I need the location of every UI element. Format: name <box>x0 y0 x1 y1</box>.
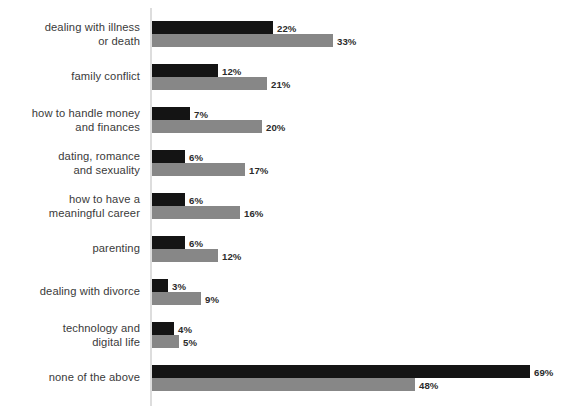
bar-value-label: 6% <box>189 237 203 248</box>
bar-group: 4%5% <box>152 320 573 350</box>
bar-value-label: 12% <box>222 250 242 261</box>
bar-series-a <box>152 64 218 77</box>
category-label: dealing with illness or death <box>0 21 140 48</box>
chart-row: how to handle money and finances7%20% <box>0 105 573 135</box>
category-label: how to handle money and finances <box>0 107 140 134</box>
bar-track: 6% <box>152 236 573 249</box>
chart-row: family conflict12%21% <box>0 62 573 92</box>
bar-group: 6%17% <box>152 148 573 178</box>
bar-series-b <box>152 249 218 262</box>
category-label: dealing with divorce <box>0 285 140 299</box>
bar-series-a <box>152 21 273 34</box>
chart-row: dealing with illness or death22%33% <box>0 19 573 49</box>
bar-track: 4% <box>152 322 573 335</box>
bar-value-label: 33% <box>337 35 357 46</box>
bar-track: 21% <box>152 77 573 90</box>
bar-series-b <box>152 378 415 391</box>
bar-group: 12%21% <box>152 62 573 92</box>
bar-series-b <box>152 335 179 348</box>
bar-track: 20% <box>152 120 573 133</box>
chart-row: how to have a meaningful career6%16% <box>0 191 573 221</box>
bar-track: 69% <box>152 365 573 378</box>
category-label: technology and digital life <box>0 322 140 349</box>
chart-rows: dealing with illness or death22%33%famil… <box>0 0 573 414</box>
bar-track: 6% <box>152 150 573 163</box>
chart-row: parenting6%12% <box>0 234 573 264</box>
bar-value-label: 20% <box>266 121 286 132</box>
bar-group: 69%48% <box>152 363 573 393</box>
category-label: how to have a meaningful career <box>0 193 140 220</box>
bar-group: 22%33% <box>152 19 573 49</box>
bar-group: 6%16% <box>152 191 573 221</box>
bar-series-b <box>152 292 201 305</box>
bar-value-label: 3% <box>172 280 186 291</box>
bar-track: 9% <box>152 292 573 305</box>
bar-value-label: 16% <box>244 207 264 218</box>
bar-track: 12% <box>152 64 573 77</box>
bar-series-a <box>152 193 185 206</box>
bar-value-label: 5% <box>183 336 197 347</box>
bar-series-b <box>152 120 262 133</box>
chart-row: none of the above69%48% <box>0 363 573 393</box>
bar-value-label: 4% <box>178 323 192 334</box>
bar-track: 22% <box>152 21 573 34</box>
category-label: none of the above <box>0 371 140 385</box>
bar-series-b <box>152 206 240 219</box>
bar-track: 17% <box>152 163 573 176</box>
chart-row: dealing with divorce3%9% <box>0 277 573 307</box>
bar-value-label: 9% <box>205 293 219 304</box>
category-label: family conflict <box>0 70 140 84</box>
bar-value-label: 6% <box>189 194 203 205</box>
bar-series-b <box>152 163 245 176</box>
bar-track: 6% <box>152 193 573 206</box>
bar-value-label: 6% <box>189 151 203 162</box>
bar-value-label: 48% <box>419 379 439 390</box>
category-label: parenting <box>0 242 140 256</box>
bar-track: 16% <box>152 206 573 219</box>
bar-value-label: 22% <box>277 22 297 33</box>
chart-row: dating, romance and sexuality6%17% <box>0 148 573 178</box>
bar-series-b <box>152 77 267 90</box>
bar-series-a <box>152 322 174 335</box>
bar-value-label: 12% <box>222 65 242 76</box>
bar-series-a <box>152 236 185 249</box>
bar-value-label: 17% <box>249 164 269 175</box>
bar-track: 5% <box>152 335 573 348</box>
category-label: dating, romance and sexuality <box>0 150 140 177</box>
bar-series-a <box>152 150 185 163</box>
bar-group: 7%20% <box>152 105 573 135</box>
bar-group: 6%12% <box>152 234 573 264</box>
bar-track: 7% <box>152 107 573 120</box>
bar-group: 3%9% <box>152 277 573 307</box>
chart-row: technology and digital life4%5% <box>0 320 573 350</box>
bar-series-a <box>152 365 530 378</box>
bar-series-b <box>152 34 333 47</box>
horizontal-bar-chart: dealing with illness or death22%33%famil… <box>0 0 573 414</box>
bar-track: 33% <box>152 34 573 47</box>
bar-track: 48% <box>152 378 573 391</box>
bar-track: 3% <box>152 279 573 292</box>
bar-value-label: 21% <box>271 78 291 89</box>
bar-value-label: 69% <box>534 366 554 377</box>
bar-series-a <box>152 279 168 292</box>
bar-track: 12% <box>152 249 573 262</box>
bar-value-label: 7% <box>194 108 208 119</box>
bar-series-a <box>152 107 190 120</box>
